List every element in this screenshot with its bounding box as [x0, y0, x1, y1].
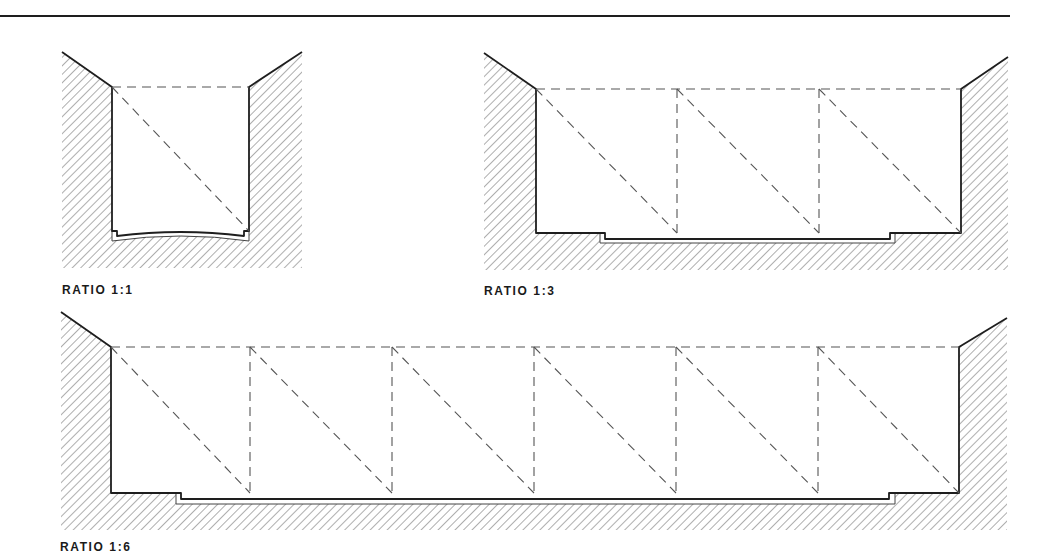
label-ratio-1-6: RATIO 1:6: [60, 540, 132, 554]
earth-hatch: [61, 312, 1007, 530]
bay-diagonal-line: [250, 347, 392, 493]
bay-diagonal-line: [818, 347, 959, 493]
diagram-ratio-1-1: [62, 52, 302, 268]
diagram-canvas: [0, 0, 1047, 557]
bay-diagonal-line: [676, 347, 818, 493]
earth-hatch: [484, 53, 1008, 270]
bay-diagonal-line: [819, 89, 961, 233]
wall-outline: [484, 53, 1008, 239]
bay-diagonal-line: [112, 87, 249, 231]
bay-diagonal-line: [677, 89, 819, 233]
label-ratio-1-1: RATIO 1:1: [62, 283, 134, 297]
label-ratio-1-3: RATIO 1:3: [484, 284, 556, 298]
diagram-ratio-1-6: [61, 312, 1007, 530]
bay-diagonal-line: [534, 347, 676, 493]
liner-outer-edge: [600, 233, 895, 243]
bay-diagonal-line: [392, 347, 534, 493]
bay-diagonal-line: [111, 347, 250, 493]
bay-diagonal-line: [536, 89, 677, 233]
diagram-ratio-1-3: [484, 53, 1008, 270]
